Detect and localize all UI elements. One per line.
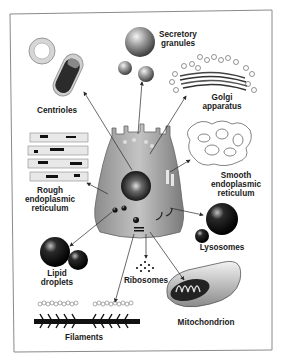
- label-mitochondrion: Mitochondrion: [178, 318, 235, 327]
- label-lysosomes: Lysosomes: [200, 243, 245, 252]
- cell-organelles-diagram: Centrioles Secretory granules Golgi appa…: [0, 0, 284, 360]
- label-secretory-line1: Secretory: [159, 30, 197, 39]
- label-golgi-line2: apparatus: [202, 102, 242, 111]
- label-golgi-line1: Golgi: [212, 93, 233, 102]
- label-smooth-er-line3: reticulum: [218, 189, 255, 198]
- label-secretory-line2: granules: [161, 39, 196, 48]
- label-smooth-er-line1: Smooth: [221, 171, 251, 180]
- label-smooth-er-line2: endoplasmic: [211, 180, 261, 189]
- label-lipid-line2: droplets: [41, 278, 74, 287]
- label-filaments: Filaments: [65, 333, 104, 342]
- label-rough-er-line3: reticulum: [32, 204, 69, 213]
- label-centrioles: Centrioles: [37, 106, 77, 115]
- label-rough-er-line1: Rough: [37, 186, 63, 195]
- nucleus-icon: [121, 171, 151, 201]
- label-ribosomes: Ribosomes: [124, 276, 169, 285]
- label-lipid-line1: Lipid: [47, 269, 67, 278]
- label-rough-er-line2: endoplasmic: [25, 195, 75, 204]
